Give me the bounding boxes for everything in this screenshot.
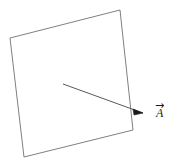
vector-surface-diagram: → A	[0, 0, 174, 166]
diagram-canvas	[0, 0, 174, 166]
